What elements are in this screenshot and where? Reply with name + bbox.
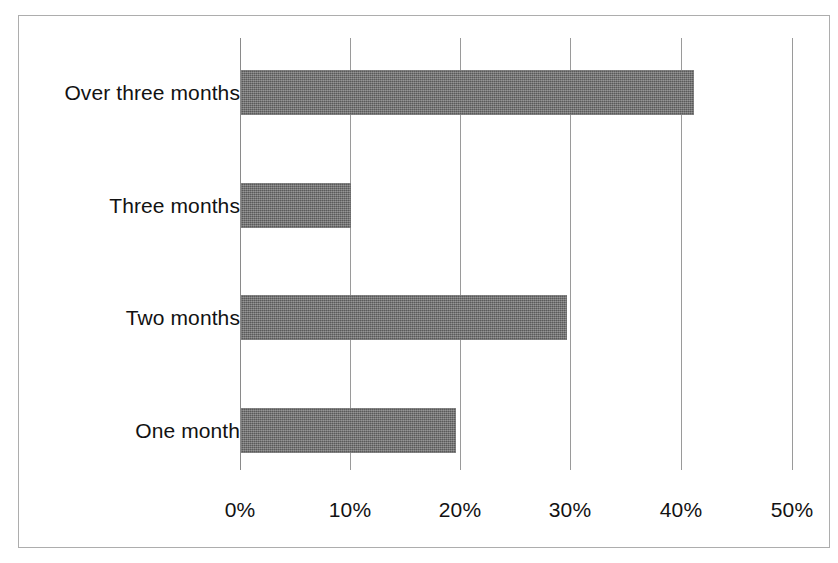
bar-three-months: [241, 183, 351, 228]
category-label-over-three-months: Over three months: [64, 70, 240, 115]
plot-area: Over three months Three months Two month…: [0, 0, 838, 563]
xtick-label-0: 0%: [200, 498, 280, 522]
xtick-label-50: 50%: [752, 498, 832, 522]
xtick-label-30: 30%: [530, 498, 610, 522]
xtick-label-10: 10%: [310, 498, 390, 522]
bar-chart-figure: Over three months Three months Two month…: [0, 0, 838, 563]
gridline-50: [792, 38, 793, 470]
xtick-label-40: 40%: [641, 498, 721, 522]
category-label-one-month: One month: [135, 408, 240, 453]
xtick-label-20: 20%: [420, 498, 500, 522]
category-label-two-months: Two months: [126, 295, 240, 340]
bar-one-month: [241, 408, 456, 453]
bar-two-months: [241, 295, 567, 340]
bar-over-three-months: [241, 70, 694, 115]
category-label-three-months: Three months: [109, 183, 240, 228]
